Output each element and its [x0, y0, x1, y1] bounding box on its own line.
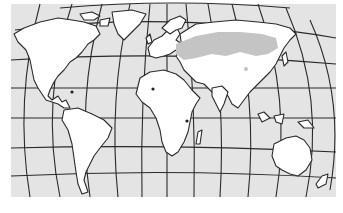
- arctic-islands: [100, 18, 110, 26]
- east-africa-dot: [185, 119, 188, 122]
- world-map: [0, 0, 343, 213]
- caribbean-dot: [70, 90, 73, 93]
- tibet-dot: [244, 67, 248, 71]
- world-map-svg: [0, 0, 343, 213]
- west-africa-dot: [151, 87, 154, 90]
